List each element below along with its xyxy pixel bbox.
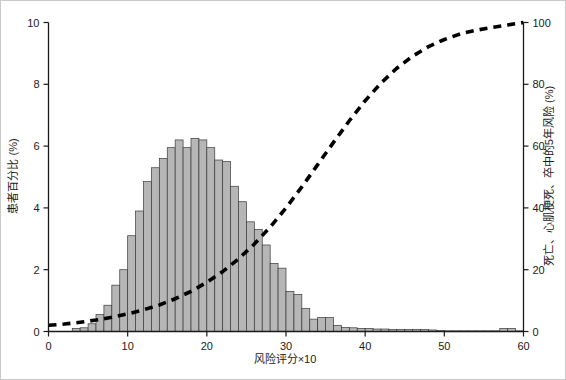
histogram-bar	[223, 162, 231, 332]
histogram-bar	[167, 148, 175, 332]
y-axis-right-title: 死亡、心肌梗死、卒中的5年风险 (%)	[542, 86, 555, 266]
x-axis-tick-label: 50	[438, 340, 450, 352]
x-axis-tick-label: 40	[359, 340, 371, 352]
histogram-bar	[334, 325, 342, 331]
y-axis-left-tick-label: 8	[33, 78, 39, 90]
x-axis-title: 风险评分×10	[254, 352, 317, 365]
histogram-bar	[191, 138, 199, 331]
histogram-bar	[270, 264, 278, 332]
histogram-bar	[96, 315, 104, 332]
histogram-bar	[246, 222, 254, 332]
y-axis-right-tick-label: 100	[533, 17, 551, 29]
histogram-bar	[326, 318, 334, 332]
y-axis-left-tick-label: 6	[33, 140, 39, 152]
histogram-bar	[294, 294, 302, 331]
x-axis-tick-label: 20	[201, 340, 213, 352]
histogram-bar	[175, 140, 183, 332]
chart-figure: 01020304050600246810020406080100 患者百分比 (…	[0, 0, 566, 380]
histogram-risk-curve-chart: 01020304050600246810020406080100 患者百分比 (…	[0, 0, 566, 380]
y-axis-left-title: 患者百分比 (%)	[7, 138, 19, 213]
histogram-bar	[207, 148, 215, 332]
y-axis-left-tick-label: 10	[27, 17, 39, 29]
histogram-bar	[88, 324, 96, 332]
histogram-bar	[239, 202, 247, 332]
histogram-bar	[286, 291, 294, 331]
y-axis-left-tick-label: 0	[33, 326, 39, 338]
histogram-bar	[262, 245, 270, 332]
histogram-bar	[199, 140, 207, 332]
histogram-bar	[278, 268, 286, 331]
histogram-bar	[231, 186, 239, 331]
histogram-bar	[215, 160, 223, 331]
histogram-bar	[302, 308, 310, 331]
histogram-bar	[120, 270, 128, 332]
x-axis-tick-label: 0	[45, 340, 51, 352]
x-axis-tick-label: 10	[122, 340, 134, 352]
y-axis-left-tick-label: 4	[33, 202, 39, 214]
y-axis-right-tick-label: 0	[533, 326, 539, 338]
x-axis-tick-label: 30	[280, 340, 292, 352]
histogram-bar	[128, 236, 136, 332]
x-axis-tick-label: 60	[517, 340, 529, 352]
histogram-bar	[112, 285, 120, 331]
histogram-bar	[183, 148, 191, 332]
histogram-bar	[310, 319, 318, 331]
histogram-bar	[318, 318, 326, 332]
y-axis-left-tick-label: 2	[33, 264, 39, 276]
